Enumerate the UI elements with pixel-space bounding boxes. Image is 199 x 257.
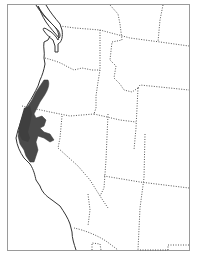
map-canvas xyxy=(0,0,199,257)
puget-sound xyxy=(38,6,60,38)
state-borders xyxy=(22,5,189,250)
range-map xyxy=(0,0,199,257)
